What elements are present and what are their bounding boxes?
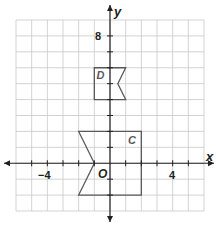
x-axis-label: x [206,150,213,163]
coordinate-plane [0,0,219,227]
y-tick-label-8: 8 [95,31,101,42]
shape-d-label: D [97,70,105,81]
y-axis-down-arrow-icon [107,216,113,222]
x-tick-label-neg4: −4 [38,170,51,181]
origin-label: O [98,168,107,180]
y-axis-label: y [114,5,121,18]
y-axis-up-arrow-icon [107,5,113,11]
shape-c-label: C [128,135,136,146]
x-tick-label-4: 4 [169,170,175,181]
x-axis-left-arrow-icon [4,160,10,166]
axes [4,5,214,222]
